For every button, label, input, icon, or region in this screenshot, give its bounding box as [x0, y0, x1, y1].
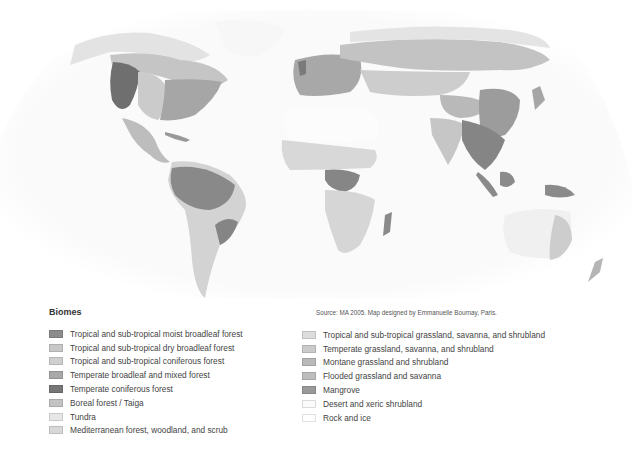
legend-item: Tropical and sub-tropical grassland, sav… [302, 328, 545, 342]
legend-swatch [302, 400, 316, 408]
legend-label: Mediterranean forest, woodland, and scru… [70, 425, 228, 435]
legend-label: Tropical and sub-tropical dry broadleaf … [70, 343, 234, 353]
legend-item: Mangrove [302, 383, 545, 397]
legend-label: Temperate broadleaf and mixed forest [70, 370, 210, 380]
legend-item: Temperate coniferous forest [49, 382, 243, 396]
legend-label: Rock and ice [323, 413, 371, 423]
legend-item: Tropical and sub-tropical dry broadleaf … [49, 341, 243, 355]
legend-swatch [49, 357, 63, 365]
legend-item: Flooded grassland and savanna [302, 369, 545, 383]
world-biome-map [0, 0, 632, 300]
legend-swatch [302, 414, 316, 422]
legend-swatch [49, 371, 63, 379]
legend-label: Mangrove [323, 385, 360, 395]
legend-label: Desert and xeric shrubland [323, 399, 422, 409]
legend-item: Mediterranean forest, woodland, and scru… [49, 424, 243, 438]
legend-title: Biomes [49, 307, 82, 317]
legend-item: Temperate grassland, savanna, and shrubl… [302, 342, 545, 356]
legend-swatch [49, 344, 63, 352]
legend-label: Temperate coniferous forest [70, 384, 173, 394]
legend-label: Montane grassland and shrubland [323, 357, 448, 367]
legend-left-column: Tropical and sub-tropical moist broadlea… [49, 327, 243, 437]
legend-swatch [49, 413, 63, 421]
legend-item: Montane grassland and shrubland [302, 356, 545, 370]
legend-label: Tropical and sub-tropical coniferous for… [70, 356, 224, 366]
legend-item: Temperate broadleaf and mixed forest [49, 368, 243, 382]
legend-label: Tropical and sub-tropical grassland, sav… [323, 330, 545, 340]
legend-item: Tundra [49, 410, 243, 424]
legend-swatch [49, 330, 63, 338]
legend-swatch [49, 385, 63, 393]
legend-swatch [302, 331, 316, 339]
legend-right-column: Tropical and sub-tropical grassland, sav… [302, 328, 545, 425]
legend-item: Tropical and sub-tropical moist broadlea… [49, 327, 243, 341]
legend-item: Rock and ice [302, 411, 545, 425]
legend-item: Desert and xeric shrubland [302, 397, 545, 411]
legend-item: Boreal forest / Taiga [49, 396, 243, 410]
sahara-desert [284, 108, 379, 143]
legend-swatch [49, 426, 63, 434]
legend-label: Tropical and sub-tropical moist broadlea… [70, 329, 243, 339]
legend-swatch [302, 372, 316, 380]
legend-swatch [302, 345, 316, 353]
legend-label: Flooded grassland and savanna [323, 371, 441, 381]
legend-label: Temperate grassland, savanna, and shrubl… [323, 344, 494, 354]
legend-swatch [302, 386, 316, 394]
legend-swatch [49, 399, 63, 407]
source-credit: Source: MA 2005. Map designed by Emmanue… [316, 309, 497, 316]
legend-item: Tropical and sub-tropical coniferous for… [49, 355, 243, 369]
legend-label: Boreal forest / Taiga [70, 398, 144, 408]
legend-swatch [302, 358, 316, 366]
legend-label: Tundra [70, 412, 96, 422]
